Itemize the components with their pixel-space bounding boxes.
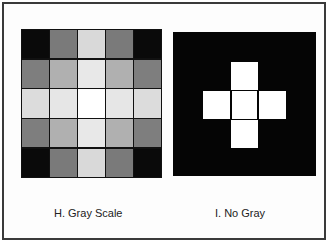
gray-cell-r0-c0 (22, 30, 49, 58)
gray-cell-r3-c1 (50, 119, 77, 147)
gray-cell-r4-c0 (22, 149, 49, 177)
gray-cell-r2-c4 (134, 89, 161, 117)
gray-scale-grid (21, 29, 162, 178)
gray-cell-r3-c3 (106, 119, 133, 147)
gray-cell-r4-c2 (78, 149, 105, 177)
gray-cell-r0-c1 (50, 30, 77, 58)
gray-cell-r0-c4 (134, 30, 161, 58)
caption-no-gray: I. No Gray (215, 207, 265, 219)
gray-cell-r3-c0 (22, 119, 49, 147)
gray-cell-r1-c0 (22, 60, 49, 88)
gray-cell-r4-c4 (134, 149, 161, 177)
gray-cell-r3-c4 (134, 119, 161, 147)
gray-cell-r4-c3 (106, 149, 133, 177)
gray-cell-r2-c1 (50, 89, 77, 117)
gray-cell-r2-c3 (106, 89, 133, 117)
cross-cell-center (231, 91, 258, 119)
no-gray-square (173, 32, 316, 176)
gray-cell-r1-c2 (78, 60, 105, 88)
gray-cell-r2-c0 (22, 89, 49, 117)
cross-cell-top (231, 62, 258, 90)
gray-cell-r1-c3 (106, 60, 133, 88)
gray-cell-r2-c2 (78, 89, 105, 117)
gray-cell-r1-c4 (134, 60, 161, 88)
gray-cell-r0-c3 (106, 30, 133, 58)
gray-cell-r3-c2 (78, 119, 105, 147)
gray-cell-r4-c1 (50, 149, 77, 177)
caption-gray-scale: H. Gray Scale (54, 207, 122, 219)
cross-cell-right (259, 91, 286, 119)
gray-cell-r1-c1 (50, 60, 77, 88)
gray-cell-r0-c2 (78, 30, 105, 58)
cross-cell-left (203, 91, 230, 119)
cross-cell-bottom (231, 120, 258, 148)
